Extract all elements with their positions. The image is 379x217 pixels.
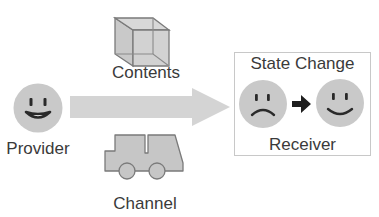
- receiver-label: Receiver: [240, 135, 365, 155]
- contents-label: Contents: [100, 63, 192, 83]
- smiling-face-icon: [315, 78, 365, 128]
- transfer-arrow-icon: [70, 88, 232, 126]
- provider-happy-face-icon: [12, 82, 64, 134]
- sad-face-icon: [238, 79, 288, 129]
- channel-label: Channel: [100, 194, 190, 214]
- state-change-title: State Change: [234, 54, 371, 74]
- provider-label: Provider: [0, 139, 76, 159]
- truck-icon: [103, 133, 187, 183]
- right-arrow-icon: [292, 95, 312, 113]
- wireframe-cube-icon: [113, 14, 173, 69]
